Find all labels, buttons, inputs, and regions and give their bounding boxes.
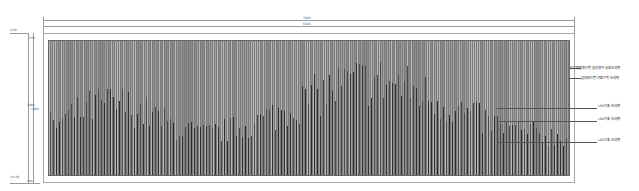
facade-bar-dark [146,97,147,175]
facade-bar-dark [209,125,210,175]
facade-bar [483,41,484,175]
facade-bar-dark [446,121,447,175]
facade-bar-dark [191,122,192,175]
facade-bar-dark [302,86,303,175]
dimension-line-overall [43,20,574,21]
facade-bar [105,41,106,175]
facade-bar-dark [389,81,390,175]
facade-bar-dark [461,102,462,175]
facade-bar-dark [251,136,252,175]
facade-bar [255,41,256,175]
facade-bar-dark [470,111,471,175]
facade-bar [351,41,352,175]
facade-bar-dark [503,133,504,175]
facade-bar-dark [212,128,213,175]
facade-bar-dark [152,112,153,175]
facade-bar-dark [221,141,222,175]
facade-bar-dark [335,101,336,175]
facade-bar-dark [224,119,225,175]
facade-bar [99,41,100,175]
facade-bar-dark [371,98,372,175]
facade-bar-dark [413,86,414,175]
facade-bar-dark [488,116,489,175]
facade-bar [51,41,52,175]
facade-bar [201,41,202,175]
facade-bar-dark [248,138,249,175]
facade-bar-dark [197,126,198,175]
facade-bar [183,41,184,175]
facade-bar-dark [542,142,543,175]
facade-bar-dark [422,101,423,175]
facade-bar-dark [416,88,417,175]
facade-panel [48,40,570,176]
facade-bar-dark [260,114,261,175]
facade-bar-dark [428,101,429,175]
facade-bar-dark [149,126,150,175]
facade-bar-dark [521,130,522,175]
facade-bar-dark [92,119,93,175]
facade-bar-dark [527,134,528,175]
facade-bar-dark [71,104,72,175]
facade-bar [447,41,448,175]
facade-bar [69,41,70,175]
facade-bar-dark [68,110,69,175]
facade-bar [417,41,418,175]
facade-bar-dark [491,131,492,175]
facade-bar [291,41,292,175]
facade-bar-dark [86,102,87,175]
facade-bar [495,41,496,175]
facade-bar [207,41,208,175]
dimension-line-inner [43,26,574,27]
facade-bar-dark [194,128,195,175]
facade-bar-dark [242,137,243,175]
facade-bar [345,41,346,175]
facade-bar-dark [65,114,66,175]
top-elevation-label: 4.80 [10,29,17,32]
facade-bar [153,41,154,175]
facade-bar [93,41,94,175]
facade-bar-dark [263,116,264,175]
facade-bar-dark [122,89,123,175]
facade-bar-dark [272,105,273,175]
facade-bar-dark [143,124,144,175]
facade-bar-dark [443,107,444,175]
facade-bar [279,41,280,175]
facade-bar-dark [395,84,396,175]
elevation-leader-bottom [10,183,40,184]
facade-bar-dark [281,110,282,175]
facade-bar-dark [173,123,174,175]
facade-bar-dark [101,100,102,175]
facade-bar-dark [377,75,378,175]
facade-bar-dark [278,108,279,175]
facade-bar-dark [566,138,567,175]
facade-bar-dark [497,116,498,175]
facade-bar-dark [440,119,441,175]
facade-bar-dark [170,119,171,175]
facade-bar-dark [404,81,405,175]
facade-bar [267,41,268,175]
facade-bar-dark [80,117,81,175]
overall-width-label: 7000 [303,17,311,20]
facade-bar-dark [98,89,99,175]
facade-bar-dark [518,122,519,175]
facade-bar-dark [509,126,510,175]
facade-bar-dark [551,129,552,175]
facade-bar-dark [380,62,381,175]
facade-bar-dark [383,98,384,175]
facade-bar-dark [392,83,393,175]
facade-bar-dark [494,116,495,175]
facade-bar [63,41,64,175]
facade-bar [261,41,262,175]
facade-bar-dark [266,109,267,175]
facade-bar [57,41,58,175]
facade-bar [129,41,130,175]
facade-bar-dark [113,97,114,175]
facade-bar [441,41,442,175]
facade-bar-dark [107,89,108,175]
facade-bar-dark [329,75,330,175]
facade-bar-dark [128,92,129,175]
height-inner-label: 1800 [31,108,39,111]
facade-bar [369,41,370,175]
facade-bar-dark [557,134,558,175]
facade-bar-dark [77,97,78,175]
